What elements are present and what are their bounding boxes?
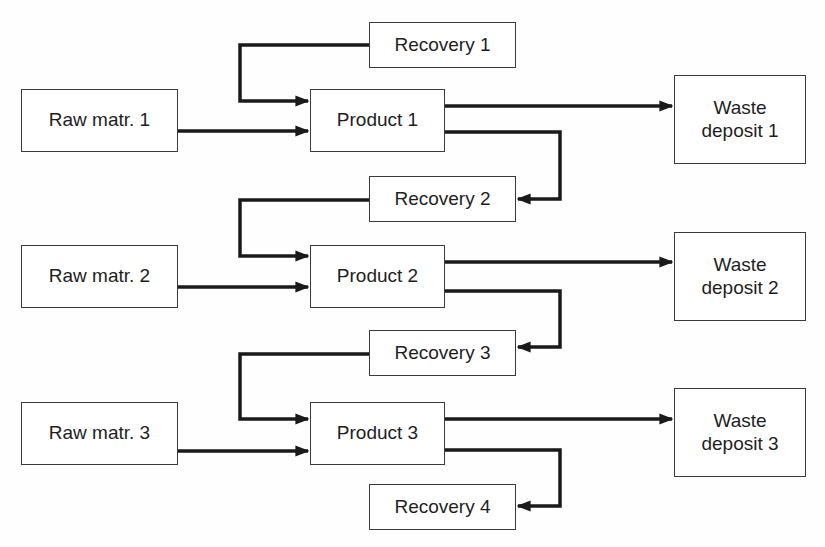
node-product-1: Product 1 (310, 89, 445, 152)
node-raw-material-3: Raw matr. 3 (21, 402, 178, 465)
node-product-3: Product 3 (310, 402, 445, 465)
node-waste-deposit-2: Waste deposit 2 (674, 232, 806, 321)
node-waste-deposit-1: Waste deposit 1 (674, 75, 806, 164)
node-product-2: Product 2 (310, 245, 445, 308)
node-raw-material-2: Raw matr. 2 (21, 245, 178, 308)
process-flow-diagram: Raw matr. 1 Raw matr. 2 Raw matr. 3 Prod… (0, 0, 825, 547)
node-recovery-2: Recovery 2 (369, 176, 516, 222)
node-recovery-1: Recovery 1 (369, 22, 516, 68)
node-recovery-4: Recovery 4 (369, 484, 516, 530)
node-waste-deposit-3: Waste deposit 3 (674, 388, 806, 477)
node-recovery-3: Recovery 3 (369, 330, 516, 376)
node-raw-material-1: Raw matr. 1 (21, 89, 178, 152)
